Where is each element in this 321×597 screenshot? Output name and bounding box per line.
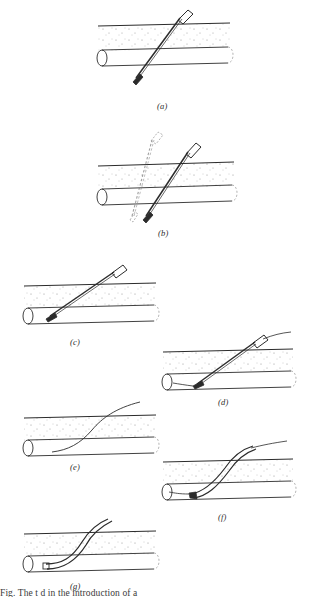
vessel	[23, 437, 159, 456]
vessel	[23, 305, 159, 324]
panel-label-c: (c)	[70, 337, 80, 347]
guidewire-proximal	[263, 332, 291, 339]
needle-hub	[186, 143, 201, 158]
figure-caption: Fig. The t d in the introduction of a	[0, 588, 321, 597]
panel-f	[155, 440, 305, 520]
panel-label-a: (a)	[157, 101, 168, 111]
guidewire-proximal	[251, 441, 287, 448]
panel-b	[88, 128, 243, 228]
needle-hub	[178, 10, 193, 24]
panel-d	[155, 328, 305, 406]
vessel	[162, 371, 296, 390]
tissue-band	[98, 23, 230, 51]
catheter-tip	[189, 492, 197, 499]
panel-e	[16, 400, 166, 472]
seldinger-technique-figure: (a)	[0, 0, 321, 597]
panel-label-e: (e)	[70, 462, 80, 472]
panel-label-d: (d)	[218, 397, 229, 407]
panel-c	[16, 258, 166, 336]
guidewire-distal	[173, 383, 193, 386]
panel-g	[16, 518, 166, 586]
vessel	[97, 47, 233, 66]
vessel	[162, 481, 296, 500]
panel-label-b: (b)	[158, 228, 169, 238]
panel-a	[88, 4, 238, 99]
needle-hub	[253, 335, 268, 348]
panel-label-f: (f)	[218, 512, 227, 522]
needle-hub	[112, 265, 127, 278]
